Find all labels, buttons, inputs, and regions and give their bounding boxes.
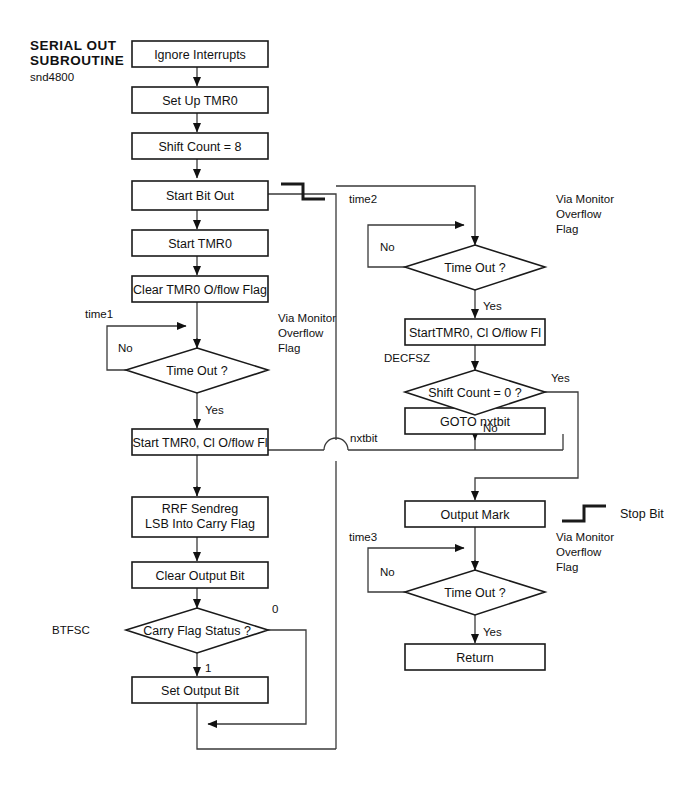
node-label: Shift Count = 8 <box>158 140 241 154</box>
label-no-shiftcount: No <box>483 422 498 434</box>
node-label: Clear TMR0 O/flow Flag <box>133 283 267 297</box>
decision-label: Time Out ? <box>444 261 505 275</box>
node-label: Set Up TMR0 <box>162 94 238 108</box>
decision-label: Shift Count = 0 ? <box>428 386 522 400</box>
label-via-monitor-3a: Via Monitor <box>556 531 614 543</box>
label-btfsc: BTFSC <box>52 624 90 636</box>
label-yes-time1: Yes <box>205 404 224 416</box>
label-no-time2: No <box>380 241 395 253</box>
loop-bottom-to-bus <box>197 703 336 749</box>
decision-time-out-2[interactable]: Time Out ? <box>405 245 545 290</box>
label-yes-shiftcount: Yes <box>551 372 570 384</box>
label-zero-carryflag: 0 <box>272 603 278 615</box>
label-decfsz: DECFSZ <box>384 352 430 364</box>
label-time2: time2 <box>349 193 377 205</box>
node-label: Return <box>456 651 494 665</box>
decision-label: Time Out ? <box>444 586 505 600</box>
node-label: Ignore Interrupts <box>154 48 246 62</box>
decision-time-out-1[interactable]: Time Out ? <box>126 348 268 393</box>
decision-time-out-3[interactable]: Time Out ? <box>405 570 545 615</box>
label-via-monitor-1c: Flag <box>278 342 300 354</box>
node-start-tmr0-cl-oflow-2[interactable]: StartTMR0, Cl O/flow Fl <box>405 319 545 345</box>
page-title-line2: SUBROUTINE <box>30 53 124 68</box>
node-label: Start TMR0 <box>168 237 232 251</box>
label-via-monitor-2c: Flag <box>556 223 578 235</box>
node-clear-tmr0-oflow-flag[interactable]: Clear TMR0 O/flow Flag <box>132 276 268 302</box>
stop-bit-label: Stop Bit <box>620 507 664 521</box>
label-via-monitor-2b: Overflow <box>556 208 602 220</box>
node-label-line2: LSB Into Carry Flag <box>145 517 255 531</box>
node-start-tmr0[interactable]: Start TMR0 <box>132 230 268 256</box>
node-label-line1: RRF Sendreg <box>162 502 238 516</box>
node-label: Set Output Bit <box>161 684 239 698</box>
label-via-monitor-1b: Overflow <box>278 327 324 339</box>
node-label: Start Bit Out <box>166 189 235 203</box>
node-set-up-tmr0[interactable]: Set Up TMR0 <box>132 87 268 113</box>
node-start-bit-out[interactable]: Start Bit Out <box>132 181 268 210</box>
start-bit-waveform-icon <box>281 184 325 199</box>
label-time3: time3 <box>349 531 377 543</box>
label-yes-time2: Yes <box>483 300 502 312</box>
stop-bit-waveform-icon <box>562 506 606 521</box>
label-via-monitor-3b: Overflow <box>556 546 602 558</box>
node-ignore-interrupts[interactable]: Ignore Interrupts <box>132 41 268 67</box>
label-yes-time3: Yes <box>483 626 502 638</box>
page-subtitle: snd4800 <box>30 71 74 83</box>
node-label: GOTO nxtbit <box>440 415 510 429</box>
label-one-carryflag: 1 <box>205 662 211 674</box>
serial-out-subroutine-flowchart: SERIAL OUT SUBROUTINE snd4800 Ig <box>0 0 692 788</box>
label-no-time1: No <box>118 342 133 354</box>
node-rrf-sendreg[interactable]: RRF Sendreg LSB Into Carry Flag <box>132 497 268 537</box>
node-label: Clear Output Bit <box>156 569 245 583</box>
node-return[interactable]: Return <box>405 644 545 670</box>
label-via-monitor-2a: Via Monitor <box>556 193 614 205</box>
label-no-time3: No <box>380 566 395 578</box>
node-shift-count-8[interactable]: Shift Count = 8 <box>132 133 268 159</box>
decision-label: Carry Flag Status ? <box>143 624 251 638</box>
label-via-monitor-3c: Flag <box>556 561 578 573</box>
node-label: Output Mark <box>441 508 511 522</box>
node-set-output-bit[interactable]: Set Output Bit <box>132 677 268 703</box>
decision-label: Time Out ? <box>166 364 227 378</box>
node-output-mark[interactable]: Output Mark <box>405 501 545 527</box>
node-start-tmr0-cl-oflow-1[interactable]: Start TMR0, Cl O/flow Fl <box>132 429 268 455</box>
label-time1: time1 <box>85 308 113 320</box>
node-label: StartTMR0, Cl O/flow Fl <box>409 326 541 340</box>
page-title-line1: SERIAL OUT <box>30 38 117 53</box>
node-label: Start TMR0, Cl O/flow Fl <box>132 436 267 450</box>
label-nxtbit: nxtbit <box>350 432 378 444</box>
node-clear-output-bit[interactable]: Clear Output Bit <box>132 562 268 588</box>
decision-carry-flag-status[interactable]: Carry Flag Status ? <box>126 608 268 653</box>
label-via-monitor-1a: Via Monitor <box>278 312 336 324</box>
